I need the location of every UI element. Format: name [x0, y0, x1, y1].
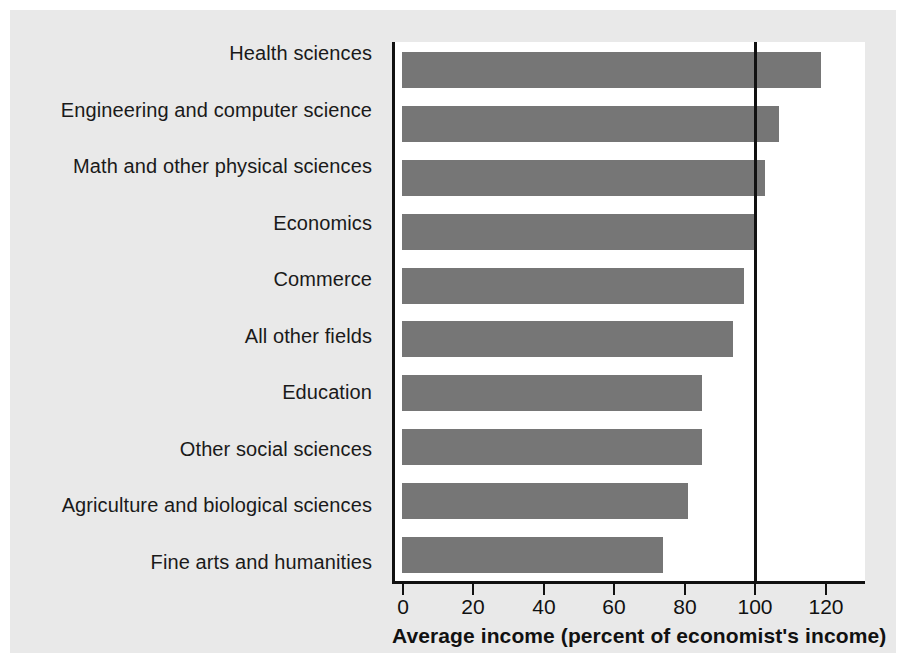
figure-panel: Health sciences Engineering and computer…	[10, 10, 896, 653]
category-label-commerce: Commerce	[10, 268, 372, 290]
category-label-education: Education	[10, 381, 372, 403]
x-axis-title: Average income (percent of economist's i…	[392, 624, 865, 648]
plot-area	[392, 42, 865, 583]
category-label-fine-arts-and-humanities: Fine arts and humanities	[10, 551, 372, 573]
category-label-other-social-sciences: Other social sciences	[10, 438, 372, 460]
bar-engineering-and-computer-science	[402, 106, 779, 142]
bar-math-and-other-physical-sciences	[402, 160, 765, 196]
bar-row	[402, 375, 865, 411]
bar-row	[402, 52, 865, 88]
bar-row	[402, 537, 865, 573]
bar-commerce	[402, 268, 744, 304]
category-label-economics: Economics	[10, 212, 372, 234]
bar-row	[402, 160, 865, 196]
bar-all-other-fields	[402, 321, 733, 357]
x-tick-label-0: 0	[397, 596, 409, 617]
category-label-all-other-fields: All other fields	[10, 325, 372, 347]
bar-row	[402, 106, 865, 142]
reference-line-100	[754, 42, 757, 583]
bar-series	[402, 42, 865, 583]
bar-health-sciences	[402, 52, 821, 88]
category-axis-labels: Health sciences Engineering and computer…	[10, 42, 382, 573]
bar-row	[402, 321, 865, 357]
category-label-math-and-other-physical-sciences: Math and other physical sciences	[10, 155, 372, 177]
x-tick-label-80: 80	[673, 596, 696, 617]
x-tick-mark-120	[825, 584, 827, 595]
bar-other-social-sciences	[402, 429, 702, 465]
x-tick-mark-20	[472, 584, 474, 595]
bar-row	[402, 429, 865, 465]
category-label-agriculture-and-biological-sciences: Agriculture and biological sciences	[10, 494, 372, 516]
bar-row	[402, 268, 865, 304]
x-tick-mark-80	[684, 584, 686, 595]
bar-education	[402, 375, 702, 411]
bar-agriculture-and-biological-sciences	[402, 483, 688, 519]
x-tick-label-40: 40	[532, 596, 555, 617]
x-tick-label-100: 100	[737, 596, 772, 617]
x-tick-mark-0	[402, 584, 404, 595]
y-axis-line	[392, 42, 395, 583]
bar-row	[402, 214, 865, 250]
x-tick-label-120: 120	[808, 596, 843, 617]
bar-fine-arts-and-humanities	[402, 537, 663, 573]
category-label-engineering-and-computer-science: Engineering and computer science	[10, 99, 372, 121]
bar-economics	[402, 214, 755, 250]
x-tick-mark-40	[543, 584, 545, 595]
x-tick-mark-100	[754, 584, 756, 595]
bar-row	[402, 483, 865, 519]
category-label-health-sciences: Health sciences	[10, 42, 372, 64]
x-tick-mark-60	[613, 584, 615, 595]
x-tick-label-20: 20	[461, 596, 484, 617]
x-tick-label-60: 60	[602, 596, 625, 617]
x-axis-ticks: 0 20 40 60 80 100 120	[392, 584, 865, 596]
